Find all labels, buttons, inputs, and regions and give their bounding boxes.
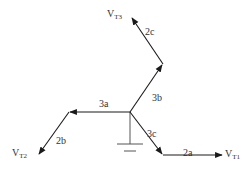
segment-label-2a: 2a bbox=[183, 148, 192, 158]
ground-icon bbox=[117, 112, 143, 151]
segment-label-3a: 3a bbox=[99, 99, 108, 109]
phasor-2c bbox=[132, 18, 163, 64]
segment-label-3c: 3c bbox=[147, 129, 156, 139]
phasor-3b bbox=[130, 65, 162, 112]
terminal-label-vt2: VT2 bbox=[12, 148, 27, 160]
phasor-diagram bbox=[0, 0, 252, 172]
segment-label-3b: 3b bbox=[152, 93, 162, 103]
terminal-label-vt1: VT1 bbox=[225, 149, 240, 161]
phasor-2b bbox=[39, 112, 69, 154]
segment-label-2c: 2c bbox=[145, 27, 154, 37]
terminal-label-vt3: VT3 bbox=[107, 9, 122, 21]
segment-label-2b: 2b bbox=[56, 136, 66, 146]
phasor-3c bbox=[130, 112, 162, 154]
